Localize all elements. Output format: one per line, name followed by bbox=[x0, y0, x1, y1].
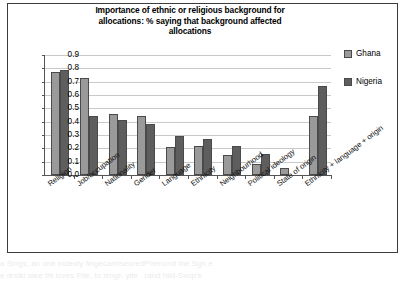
y-tick-mark bbox=[42, 162, 45, 163]
bar-ghana-job-occupation[interactable] bbox=[80, 78, 89, 175]
y-tick-mark bbox=[42, 175, 45, 176]
x-tick-mark bbox=[274, 175, 275, 179]
legend-label-nigeria: Nigeria bbox=[356, 77, 382, 86]
x-tick-mark bbox=[102, 175, 103, 179]
chart-title: Importance of ethnic or religious backgr… bbox=[40, 5, 340, 37]
page-bleed-through: a Sings, an one indexty fingecamiseoredP… bbox=[0, 258, 415, 295]
y-tick-mark bbox=[42, 68, 45, 69]
bar-group bbox=[137, 55, 155, 175]
x-tick-mark bbox=[131, 175, 132, 179]
x-tick-mark bbox=[245, 175, 246, 179]
x-tick-mark bbox=[188, 175, 189, 179]
bar-group bbox=[166, 55, 184, 175]
y-tick-label: 0.6 bbox=[53, 90, 79, 99]
legend-item-nigeria[interactable]: Nigeria bbox=[344, 76, 414, 87]
bar-group bbox=[80, 55, 98, 175]
y-tick-mark bbox=[42, 95, 45, 96]
y-tick-label: 0.5 bbox=[53, 103, 79, 112]
bar-group bbox=[223, 55, 241, 175]
bleed-line-1: a Sings, an one indexty fingecamiseoredP… bbox=[0, 258, 415, 270]
chart-figure: Importance of ethnic or religious backgr… bbox=[0, 0, 415, 295]
chart-title-line-2: allocations: % saying that background af… bbox=[40, 16, 340, 27]
legend-swatch-icon-nigeria bbox=[344, 78, 352, 86]
y-tick-mark bbox=[42, 108, 45, 109]
bar-ghana-gender[interactable] bbox=[137, 116, 146, 175]
y-tick-label: 0.4 bbox=[53, 117, 79, 126]
legend-item-ghana[interactable]: Ghana bbox=[344, 48, 414, 59]
x-tick-mark bbox=[331, 175, 332, 179]
x-tick-mark bbox=[217, 175, 218, 179]
y-tick-mark bbox=[42, 148, 45, 149]
y-tick-label: 0.8 bbox=[53, 63, 79, 72]
x-tick-mark bbox=[159, 175, 160, 179]
bar-ghana-ethnicity-language-origin[interactable] bbox=[309, 116, 318, 175]
chart-title-line-1: Importance of ethnic or religious backgr… bbox=[40, 5, 340, 16]
bar-nigeria-ethnicity-language-origin[interactable] bbox=[318, 86, 327, 175]
y-tick-label: 0.2 bbox=[53, 143, 79, 152]
chart-title-line-3: allocations bbox=[40, 26, 340, 37]
chart-legend: Ghana Nigeria bbox=[344, 48, 414, 104]
x-tick-mark bbox=[302, 175, 303, 179]
legend-swatch-icon-ghana bbox=[344, 50, 352, 58]
y-tick-mark bbox=[42, 82, 45, 83]
y-tick-mark bbox=[42, 135, 45, 136]
legend-label-ghana: Ghana bbox=[356, 49, 381, 58]
y-tick-label: 0.3 bbox=[53, 130, 79, 139]
bar-group bbox=[194, 55, 212, 175]
y-tick-label: 0.7 bbox=[53, 77, 79, 86]
y-tick-mark bbox=[42, 55, 45, 56]
bleed-line-2: e drsikl alee thi ioves Fite, to lengt- … bbox=[0, 270, 415, 282]
y-tick-mark bbox=[42, 122, 45, 123]
y-tick-label: 0.9 bbox=[53, 50, 79, 59]
